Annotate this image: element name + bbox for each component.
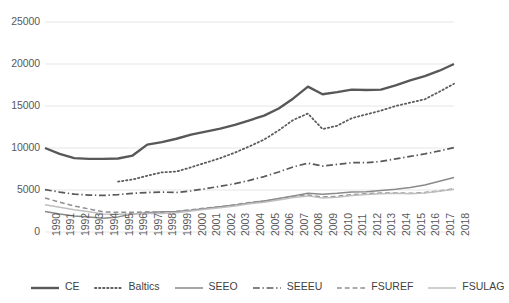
legend-item-ce[interactable]: CE: [30, 278, 94, 294]
series-line-fsulag: [45, 189, 454, 214]
legend-item-fsulag[interactable]: FSULAG: [427, 278, 509, 294]
x-axis-tick-label: 1999: [181, 213, 193, 236]
legend-label: SEEEU: [287, 280, 323, 292]
x-axis-tick-label: 2008: [312, 213, 324, 236]
legend-swatch-icon: [30, 280, 60, 292]
legend-label: FSUREF: [371, 280, 413, 292]
x-axis-tick-label: 2004: [254, 213, 266, 236]
legend-item-baltics[interactable]: Baltics: [94, 278, 174, 294]
x-axis-tick-label: 2015: [415, 213, 427, 236]
legend-swatch-icon: [174, 280, 204, 292]
x-axis-tick-label: 2013: [385, 213, 397, 236]
legend-label: SEEO: [209, 280, 238, 292]
legend-swatch-icon: [252, 280, 282, 292]
x-axis-tick-label: 1996: [137, 213, 149, 236]
legend-item-fsuref[interactable]: FSUREF: [336, 278, 427, 294]
x-axis-tick-label: 2011: [356, 214, 368, 236]
legend-item-seeo[interactable]: SEEO: [174, 278, 252, 294]
x-axis-tick-label: 2017: [444, 213, 456, 236]
x-axis-tick-label: 2006: [283, 213, 295, 236]
x-axis-tick-label: 2016: [429, 213, 441, 236]
legend-swatch-icon: [94, 280, 124, 292]
x-axis-tick-label: 2001: [210, 213, 222, 236]
legend-swatch-icon: [336, 280, 366, 292]
x-axis-tick-label: 1998: [166, 213, 178, 236]
x-axis-tick-label: 1995: [123, 213, 135, 236]
x-axis-tick-label: 2002: [225, 213, 237, 236]
x-axis-tick-label: 2009: [327, 213, 339, 236]
series-line-ce: [45, 64, 454, 159]
legend-label: FSULAG: [462, 280, 504, 292]
x-axis-tick-label: 2003: [239, 213, 251, 236]
legend-label: Baltics: [129, 280, 160, 292]
x-axis-tick-label: 1990: [50, 213, 62, 236]
x-axis-tick-label: 2014: [400, 213, 412, 236]
legend-label: CE: [65, 280, 80, 292]
series-line-baltics: [118, 84, 454, 182]
x-axis-tick-label: 2010: [342, 213, 354, 236]
x-axis-tick-label: 2018: [459, 213, 471, 236]
x-axis-tick-label: 1991: [64, 213, 76, 236]
x-axis-tick-label: 1997: [152, 213, 164, 236]
x-axis-tick-label: 2000: [196, 213, 208, 236]
x-axis-tick-label: 1994: [108, 213, 120, 236]
x-axis-tick-label: 1993: [93, 213, 105, 236]
legend-swatch-icon: [427, 280, 457, 292]
x-axis-tick-label: 1992: [79, 213, 91, 236]
x-axis-tick-label: 2007: [298, 213, 310, 236]
series-line-fsuref: [45, 189, 454, 213]
series-line-seeeu: [45, 148, 454, 196]
chart-legend: CEBalticsSEEOSEEEUFSUREFFSULAG: [30, 278, 450, 294]
x-axis-tick-label: 2005: [269, 213, 281, 236]
legend-item-seeeu[interactable]: SEEEU: [252, 278, 337, 294]
x-axis-tick-label: 2012: [371, 213, 383, 236]
